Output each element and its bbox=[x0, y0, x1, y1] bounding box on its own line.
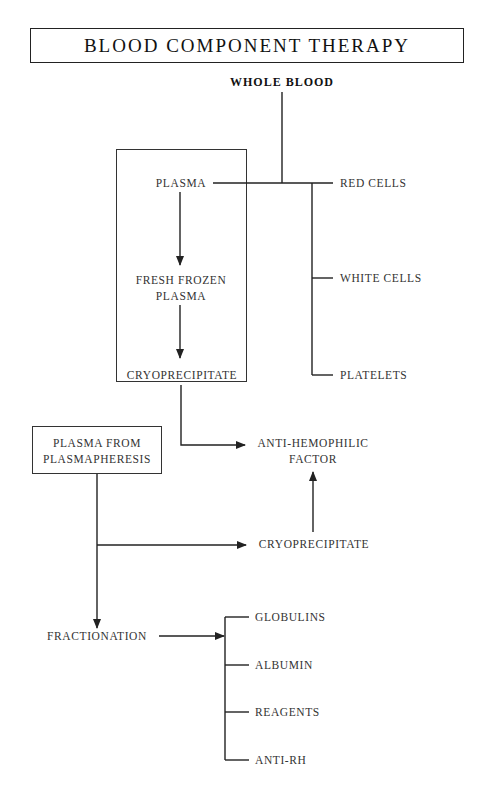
connector-lines bbox=[0, 0, 480, 785]
node-reagents: REAGENTS bbox=[255, 705, 320, 720]
node-globulins: GLOBULINS bbox=[255, 610, 326, 625]
node-albumin: ALBUMIN bbox=[255, 658, 313, 673]
node-whole-blood: WHOLE BLOOD bbox=[230, 75, 334, 90]
node-ahf-line1: ANTI-HEMOPHILIC bbox=[257, 436, 368, 451]
node-plasmapheresis-line1: PLASMA FROM bbox=[53, 436, 141, 451]
node-platelets: PLATELETS bbox=[340, 368, 407, 383]
node-fractionation: FRACTIONATION bbox=[47, 629, 147, 644]
node-plasmapheresis-line2: PLASMAPHERESIS bbox=[43, 452, 151, 467]
node-red-cells: RED CELLS bbox=[340, 176, 406, 191]
node-cryoprecipitate-top: CRYOPRECIPITATE bbox=[127, 368, 237, 383]
node-white-cells: WHITE CELLS bbox=[340, 271, 422, 286]
node-ffp-line2: PLASMA bbox=[156, 289, 206, 304]
node-cryoprecipitate-bottom: CRYOPRECIPITATE bbox=[259, 537, 369, 552]
node-plasma: PLASMA bbox=[156, 176, 206, 191]
node-anti-rh: ANTI-RH bbox=[255, 753, 306, 768]
node-ahf-line2: FACTOR bbox=[289, 452, 337, 467]
node-ffp-line1: FRESH FROZEN bbox=[136, 273, 227, 288]
